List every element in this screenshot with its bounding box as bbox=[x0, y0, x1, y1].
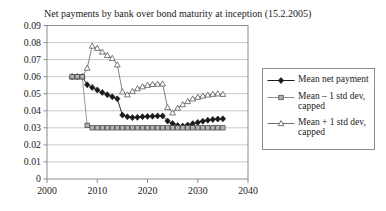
diamond-marker-icon bbox=[210, 117, 215, 123]
square-marker-icon bbox=[150, 126, 154, 130]
y-axis-tick-label: 0.06 bbox=[24, 71, 41, 82]
triangle-marker-icon bbox=[120, 89, 126, 94]
series-line bbox=[72, 46, 223, 113]
chart-figure: Net payments by bank over bond maturity … bbox=[0, 0, 386, 211]
square-marker-icon bbox=[181, 126, 185, 130]
square-marker-icon bbox=[196, 126, 200, 130]
legend-label: Mean + 1 std dev, capped bbox=[298, 118, 366, 138]
square-marker-icon bbox=[135, 126, 139, 130]
square-marker-icon bbox=[80, 75, 84, 79]
diamond-marker-icon bbox=[115, 96, 120, 102]
x-axis-tick-label: 2040 bbox=[238, 185, 258, 196]
square-marker-icon bbox=[85, 123, 89, 127]
square-marker-icon bbox=[145, 126, 149, 130]
legend-label: Mean – 1 std dev, capped bbox=[298, 92, 365, 112]
y-axis-tick-label: 0.01 bbox=[24, 156, 41, 167]
triangle-marker-icon bbox=[267, 118, 295, 129]
y-axis-tick-label: 0.03 bbox=[24, 122, 41, 133]
legend-item-mean-minus-1-std-dev: Mean – 1 std dev, capped bbox=[267, 92, 371, 112]
triangle-marker-icon bbox=[165, 105, 171, 110]
triangle-marker-icon bbox=[89, 43, 95, 48]
square-marker-icon bbox=[191, 126, 195, 130]
square-marker-icon bbox=[95, 126, 99, 130]
diamond-marker-icon bbox=[278, 78, 283, 84]
square-marker-icon bbox=[105, 126, 109, 130]
square-marker-icon bbox=[125, 126, 129, 130]
diamond-marker-icon bbox=[130, 115, 135, 121]
square-marker-icon bbox=[186, 126, 190, 130]
legend-item-mean-plus-1-std-dev: Mean + 1 std dev, capped bbox=[267, 118, 371, 138]
square-marker-icon bbox=[70, 75, 74, 79]
diamond-marker-icon bbox=[145, 113, 150, 119]
triangle-marker-icon bbox=[175, 105, 181, 110]
square-marker-icon bbox=[100, 126, 104, 130]
square-marker-icon bbox=[160, 126, 164, 130]
diamond-marker-icon bbox=[85, 82, 90, 88]
diamond-marker-icon bbox=[120, 112, 125, 118]
square-marker-icon bbox=[115, 126, 119, 130]
y-axis-tick-label: 0.02 bbox=[24, 139, 41, 150]
x-axis-tick-label: 2010 bbox=[88, 185, 108, 196]
y-axis-tick-label: 0.07 bbox=[24, 54, 41, 65]
square-marker-icon bbox=[170, 126, 174, 130]
legend-label: Mean net payment bbox=[298, 75, 369, 85]
y-axis-tick-label: 0.08 bbox=[24, 37, 41, 48]
x-axis-tick-label: 2030 bbox=[188, 185, 208, 196]
diamond-marker-icon bbox=[125, 114, 130, 120]
diamond-marker-icon bbox=[90, 84, 95, 90]
diamond-marker-icon bbox=[150, 113, 155, 119]
plot-frame bbox=[47, 26, 248, 180]
square-marker-icon bbox=[140, 126, 144, 130]
series-mean-1-std-dev-capped bbox=[69, 43, 226, 115]
y-axis-tick-label: 0 bbox=[36, 173, 41, 184]
square-marker-icon bbox=[165, 126, 169, 130]
diamond-marker-icon bbox=[200, 118, 205, 124]
triangle-marker-icon bbox=[84, 65, 90, 70]
square-marker-icon bbox=[90, 126, 94, 130]
diamond-marker-icon bbox=[205, 117, 210, 123]
square-marker-icon bbox=[221, 126, 225, 130]
triangle-marker-icon bbox=[125, 92, 131, 97]
y-axis-tick-label: 0.09 bbox=[24, 20, 41, 31]
diamond-marker-icon bbox=[140, 114, 145, 120]
y-axis-tick-label: 0.05 bbox=[24, 88, 41, 99]
diamond-marker-icon bbox=[135, 114, 140, 120]
y-axis-tick-label: 0.04 bbox=[24, 105, 41, 116]
square-marker-icon bbox=[155, 126, 159, 130]
square-marker-icon bbox=[176, 126, 180, 130]
square-marker-icon bbox=[279, 95, 283, 99]
square-marker-icon bbox=[120, 126, 124, 130]
diamond-marker-icon bbox=[95, 87, 100, 93]
square-marker-icon bbox=[201, 126, 205, 130]
diamond-marker-icon bbox=[100, 90, 105, 96]
square-marker-icon bbox=[110, 126, 114, 130]
triangle-marker-icon bbox=[180, 102, 186, 107]
diamond-marker-icon bbox=[195, 119, 200, 125]
diamond-marker-icon bbox=[215, 116, 220, 122]
square-marker-icon bbox=[130, 126, 134, 130]
legend-box: Mean net payment Mean – 1 std dev, cappe… bbox=[262, 68, 375, 150]
diamond-marker-icon bbox=[220, 116, 225, 122]
diamond-marker-icon bbox=[267, 75, 295, 86]
triangle-marker-icon bbox=[104, 52, 110, 57]
x-axis-tick-label: 2020 bbox=[138, 185, 158, 196]
square-marker-icon bbox=[216, 126, 220, 130]
x-axis-tick-label: 2000 bbox=[37, 185, 57, 196]
legend-item-mean-net-payment: Mean net payment bbox=[267, 75, 371, 86]
square-marker-icon bbox=[211, 126, 215, 130]
square-marker-icon bbox=[267, 92, 295, 103]
square-marker-icon bbox=[206, 126, 210, 130]
square-marker-icon bbox=[75, 75, 79, 79]
